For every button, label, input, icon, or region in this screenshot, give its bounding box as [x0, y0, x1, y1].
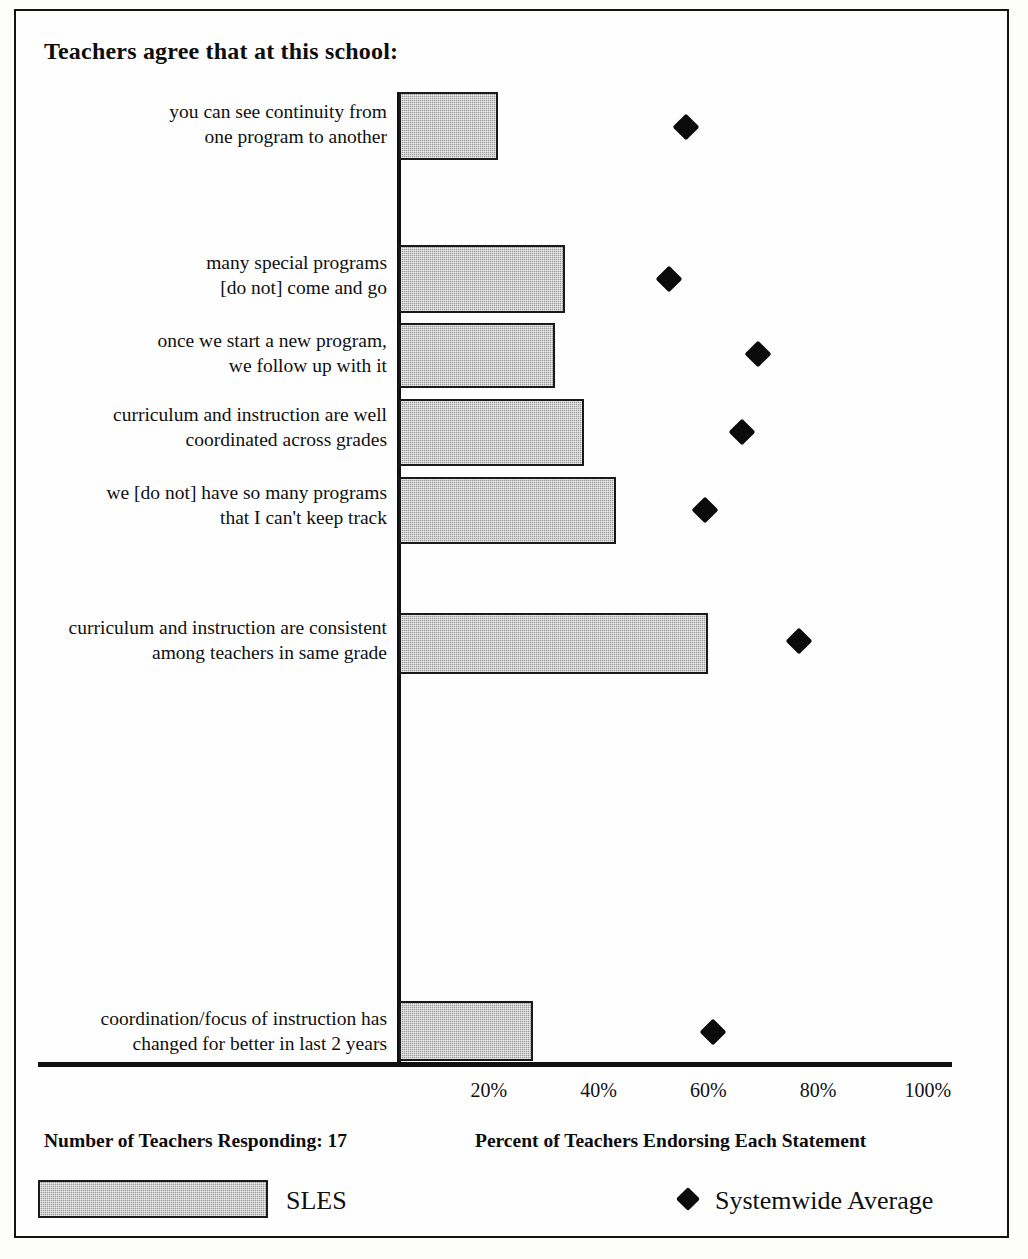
systemwide-average-marker	[700, 1019, 727, 1046]
plot-area: you can see continuity from one program …	[0, 0, 1028, 1259]
category-label: many special programs [do not] come and …	[30, 250, 387, 300]
category-label: we [do not] have so many programs that I…	[30, 480, 387, 530]
bar-segment	[399, 399, 584, 466]
chart-page: Teachers agree that at this school: you …	[0, 0, 1028, 1259]
value-axis-line	[397, 92, 401, 1062]
bar-segment	[399, 92, 498, 160]
category-label: curriculum and instruction are consisten…	[30, 615, 387, 665]
x-tick-label: 100%	[904, 1079, 951, 1102]
systemwide-average-marker	[655, 266, 682, 293]
category-label: you can see continuity from one program …	[30, 99, 387, 149]
bar-segment	[399, 1001, 533, 1061]
x-tick-label: 60%	[690, 1079, 727, 1102]
x-tick-label: 20%	[470, 1079, 507, 1102]
category-label: once we start a new program, we follow u…	[30, 328, 387, 378]
legend-marker-label: Systemwide Average	[715, 1186, 933, 1216]
systemwide-average-marker	[692, 497, 719, 524]
x-tick-label: 40%	[580, 1079, 617, 1102]
bar-segment	[399, 613, 708, 674]
category-label: curriculum and instruction are well coor…	[30, 402, 387, 452]
bar-segment	[399, 245, 565, 313]
systemwide-average-marker	[785, 628, 812, 655]
x-tick-label: 80%	[800, 1079, 837, 1102]
systemwide-average-marker	[728, 419, 755, 446]
category-axis-line	[38, 1062, 952, 1067]
category-label: coordination/focus of instruction has ch…	[30, 1006, 387, 1056]
legend-bar-swatch	[38, 1180, 268, 1218]
legend-bar-label: SLES	[286, 1186, 347, 1216]
bar-segment	[399, 323, 555, 388]
respondents-note: Number of Teachers Responding: 17	[44, 1130, 347, 1152]
axis-caption: Percent of Teachers Endorsing Each State…	[475, 1130, 866, 1152]
systemwide-average-marker	[744, 341, 771, 368]
bar-segment	[399, 477, 616, 544]
systemwide-average-marker	[672, 114, 699, 141]
